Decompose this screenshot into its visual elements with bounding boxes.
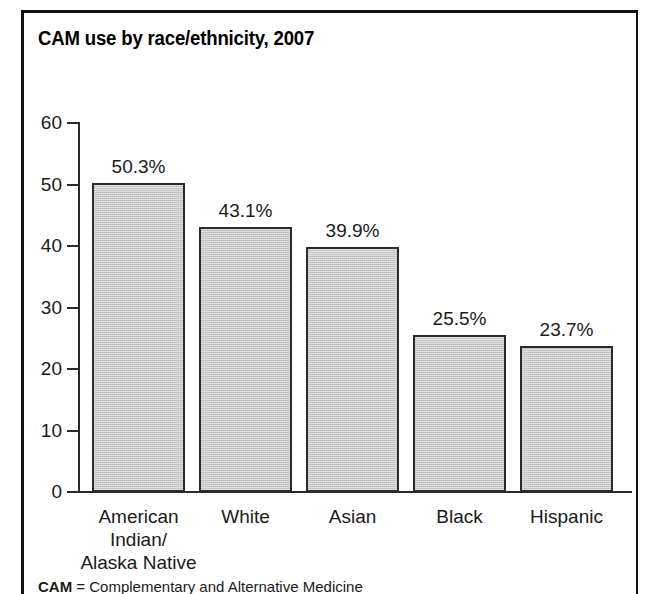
footnote-abbreviation: CAM [38, 578, 72, 594]
bar-value-label: 39.9% [292, 221, 413, 240]
bar [520, 346, 613, 492]
y-tick-mark [67, 491, 78, 493]
x-category-label-line: Indian/ [70, 528, 207, 551]
y-tick-mark [67, 245, 78, 247]
x-category-label: Hispanic [498, 505, 635, 528]
bar-value-label: 23.7% [506, 320, 627, 339]
y-tick-label: 10 [16, 421, 62, 440]
x-category-label-line: Hispanic [498, 505, 635, 528]
y-axis-line [78, 122, 80, 493]
y-tick-label: 30 [16, 298, 62, 317]
bar-value-label: 43.1% [185, 201, 306, 220]
y-tick-label: 0 [16, 482, 62, 501]
y-tick-label: 60 [16, 113, 62, 132]
y-tick-label: 20 [16, 359, 62, 378]
footnote-definition: = Complementary and Alternative Medicine [72, 578, 363, 594]
plot-area: 0102030405060 50.3%43.1%39.9%25.5%23.7% … [0, 0, 648, 594]
bar-value-label: 50.3% [78, 157, 199, 176]
chart-figure: CAM use by race/ethnicity, 2007 01020304… [0, 0, 648, 594]
bar [199, 227, 292, 492]
y-tick-mark [67, 122, 78, 124]
bar [306, 247, 399, 492]
footnote: CAM = Complementary and Alternative Medi… [38, 578, 363, 594]
bar-value-label: 25.5% [399, 309, 520, 328]
bar [413, 335, 506, 492]
y-tick-mark [67, 368, 78, 370]
y-tick-label: 40 [16, 236, 62, 255]
bar [92, 183, 185, 492]
y-tick-label: 50 [16, 175, 62, 194]
y-tick-mark [67, 184, 78, 186]
y-tick-mark [67, 307, 78, 309]
y-tick-mark [67, 430, 78, 432]
x-category-label-line: Alaska Native [70, 551, 207, 574]
